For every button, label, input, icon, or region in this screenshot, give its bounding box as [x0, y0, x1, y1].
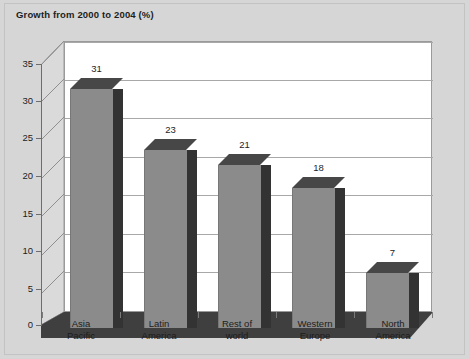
bar-value-asia-pacific: 31 [70, 63, 123, 74]
bar-top-face-rest-of-world [218, 154, 271, 165]
chart-screenshot: Growth from 2000 to 2004 (%) [0, 0, 469, 359]
bar-value-north-america: 7 [366, 247, 419, 258]
bar-top-face-latin-america [144, 139, 197, 150]
bar-front-face-rest-of-world [218, 165, 261, 328]
x-axis-label-north-america-line1: North [350, 318, 436, 330]
x-axis-label-western-europe-line2: Europe [272, 330, 358, 342]
bar-side-face-western-europe [334, 188, 345, 328]
x-axis-label-asia-pacific-line1: Asia [38, 318, 124, 330]
chart-title: Growth from 2000 to 2004 (%) [16, 9, 154, 20]
x-axis-label-rest-of-world: Rest of world [194, 318, 280, 341]
bars-layer: 31 23 21 [0, 28, 469, 318]
x-axis-label-latin-america-line2: America [116, 330, 202, 342]
bar-top-face-western-europe [292, 177, 345, 188]
x-axis-labels: Asia Pacific Latin America Rest of world… [0, 318, 469, 358]
x-axis-label-western-europe: Western Europe [272, 318, 358, 341]
bar-value-latin-america: 23 [144, 124, 197, 135]
bar-side-face-rest-of-world [260, 165, 271, 328]
bar-front-face-asia-pacific [70, 89, 113, 328]
bar-top-face-asia-pacific [70, 78, 123, 89]
bar-rest-of-world[interactable]: 21 [218, 38, 271, 328]
bar-front-face-western-europe [292, 188, 335, 328]
bar-asia-pacific[interactable]: 31 [70, 38, 123, 328]
bar-top-face-north-america [366, 262, 419, 273]
bar-latin-america[interactable]: 23 [144, 38, 197, 328]
x-axis-label-latin-america-line1: Latin [116, 318, 202, 330]
x-axis-label-asia-pacific-line2: Pacific [38, 330, 124, 342]
x-axis-label-rest-of-world-line1: Rest of [194, 318, 280, 330]
x-axis-label-latin-america: Latin America [116, 318, 202, 341]
plot-area: 35 30 25 20 15 10 5 0 31 23 [0, 28, 469, 318]
bar-value-western-europe: 18 [292, 162, 345, 173]
bar-north-america[interactable]: 7 [366, 38, 419, 328]
bar-front-face-latin-america [144, 150, 187, 328]
x-axis-label-western-europe-line1: Western [272, 318, 358, 330]
bar-side-face-asia-pacific [112, 89, 123, 328]
x-axis-label-north-america: North America [350, 318, 436, 341]
x-axis-label-north-america-line2: America [350, 330, 436, 342]
x-axis-label-rest-of-world-line2: world [194, 330, 280, 342]
bar-value-rest-of-world: 21 [218, 139, 271, 150]
x-axis-label-asia-pacific: Asia Pacific [38, 318, 124, 341]
bar-side-face-latin-america [186, 150, 197, 328]
bar-western-europe[interactable]: 18 [292, 38, 345, 328]
